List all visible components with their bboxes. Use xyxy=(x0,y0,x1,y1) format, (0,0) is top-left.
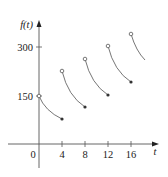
y-axis-arrow-icon xyxy=(37,20,42,27)
open-point-8 xyxy=(83,57,87,61)
y-axis-title: f(t) xyxy=(20,19,33,31)
y-label-300: 300 xyxy=(17,42,33,53)
x-label-4: 4 xyxy=(59,149,65,160)
open-point-16 xyxy=(129,32,133,36)
closed-point-12 xyxy=(106,93,109,96)
x-label-12: 12 xyxy=(103,149,114,160)
open-point-4 xyxy=(60,69,64,73)
open-point-0 xyxy=(37,94,41,98)
open-point-12 xyxy=(106,44,110,48)
chart: 0 4 8 12 16 150 300 f(t) t xyxy=(0,0,168,177)
x-label-0: 0 xyxy=(30,149,35,160)
curve-segment-1 xyxy=(39,96,62,119)
curves xyxy=(39,34,145,119)
y-label-150: 150 xyxy=(17,91,33,102)
curve-segment-5 xyxy=(131,34,145,60)
x-label-8: 8 xyxy=(82,149,87,160)
x-axis-title: t xyxy=(154,146,158,157)
x-label-16: 16 xyxy=(126,149,137,160)
closed-point-16 xyxy=(129,80,132,83)
curve-segment-4 xyxy=(108,46,131,82)
curve-segment-3 xyxy=(85,59,108,95)
closed-point-8 xyxy=(83,105,86,108)
closed-point-4 xyxy=(60,117,63,120)
curve-segment-2 xyxy=(62,71,85,107)
